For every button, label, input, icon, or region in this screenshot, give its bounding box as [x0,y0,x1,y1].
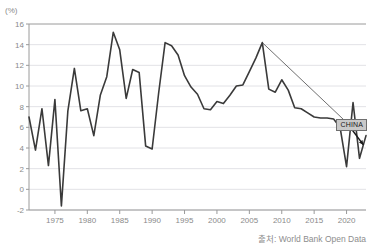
x-tick-label: 1975 [40,216,70,225]
x-tick-label: 2005 [234,216,264,225]
x-tick-label: 2010 [267,216,297,225]
y-tick-label: 4 [0,144,24,153]
y-tick-label: 10 [0,82,24,91]
x-tick-label: 1980 [72,216,102,225]
x-tick-label: 2020 [332,216,362,225]
y-tick-label: 8 [0,102,24,111]
y-tick-label: 12 [0,61,24,70]
x-tick-label: 1995 [170,216,200,225]
x-tick-label: 1990 [137,216,167,225]
source-attribution: 출처: World Bank Open Data [258,232,366,244]
y-tick-label: 16 [0,20,24,29]
y-tick-label: -2 [0,206,24,215]
y-tick-label: 14 [0,40,24,49]
data-line-china-gdp-growth [29,32,366,206]
y-tick-label: 6 [0,123,24,132]
chart-container: (%) -20246810121416 19751980198519901995… [0,0,372,247]
y-tick-label: 2 [0,164,24,173]
x-tick-label: 2015 [299,216,329,225]
y-tick-label: 0 [0,185,24,194]
x-tick-label: 2000 [202,216,232,225]
x-tick-label: 1985 [105,216,135,225]
china-annotation-label[interactable]: CHINA [336,119,367,131]
line-chart-plot [0,0,372,247]
